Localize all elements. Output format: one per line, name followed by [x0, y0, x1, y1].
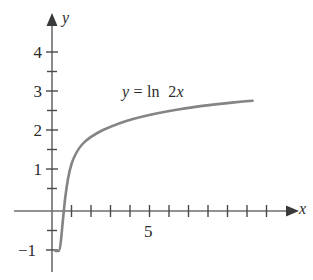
x-tick-label-5: 5 — [144, 223, 153, 240]
equation-annotation: y = ln 2x — [122, 84, 184, 100]
y-axis-label: y — [62, 10, 69, 26]
y-axis-arrow-icon — [47, 13, 58, 26]
plot-canvas — [0, 0, 313, 280]
curve-y-equals-ln-2x — [56, 101, 253, 251]
y-tick-label-neg-1: −1 — [18, 242, 36, 259]
x-axis-arrow-icon — [286, 206, 299, 217]
figure-graph-ln-2x: y x 4 3 2 1 −1 5 y = ln 2x — [0, 0, 313, 280]
y-tick-label-1: 1 — [22, 161, 42, 178]
equation-ln: ln — [147, 83, 160, 100]
y-tick-label-2: 2 — [22, 122, 42, 139]
equation-x: x — [176, 83, 183, 100]
y-tick-label-3: 3 — [22, 83, 42, 100]
equation-equals: = — [134, 83, 143, 100]
x-axis-label: x — [299, 201, 306, 217]
y-tick-label-4: 4 — [22, 44, 42, 61]
